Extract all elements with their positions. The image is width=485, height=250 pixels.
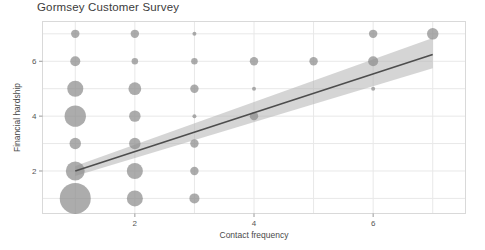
data-point-bubble xyxy=(371,87,375,91)
data-point-bubble xyxy=(190,84,198,92)
y-tick-label: 2 xyxy=(32,167,37,176)
data-point-bubble xyxy=(71,30,79,38)
data-point-bubble xyxy=(129,138,140,149)
data-point-bubble xyxy=(70,56,80,66)
data-point-bubble xyxy=(190,139,198,147)
x-tick-label: 6 xyxy=(371,219,376,228)
data-point-bubble xyxy=(127,190,143,206)
data-point-bubble xyxy=(70,138,81,149)
data-point-bubble xyxy=(191,58,197,64)
data-point-bubble xyxy=(250,57,258,65)
data-point-bubble xyxy=(189,193,199,203)
data-point-bubble xyxy=(369,30,377,38)
data-point-bubble xyxy=(252,87,256,91)
data-point-bubble xyxy=(131,30,139,38)
x-tick-label: 2 xyxy=(133,219,138,228)
data-point-bubble xyxy=(129,110,140,121)
data-point-bubble xyxy=(67,81,83,97)
data-point-bubble xyxy=(127,163,143,179)
data-point-bubble xyxy=(60,183,91,214)
y-tick-label: 4 xyxy=(32,112,37,121)
data-point-bubble xyxy=(132,58,138,64)
data-point-bubble xyxy=(190,167,198,175)
scatter-plot: 246246 Contact frequencyFinancial hardsh… xyxy=(0,0,485,250)
data-point-bubble xyxy=(427,28,438,39)
data-point-bubble xyxy=(192,114,196,118)
x-tick-label: 4 xyxy=(252,219,257,228)
data-point-bubble xyxy=(192,32,196,36)
data-point-bubble xyxy=(309,57,317,65)
data-point-bubble xyxy=(128,82,141,95)
data-point-bubble xyxy=(65,105,86,126)
data-point-bubble xyxy=(368,56,378,66)
y-tick-label: 6 xyxy=(32,57,37,66)
y-axis-title: Financial hardship xyxy=(12,83,22,152)
x-axis-title: Contact frequency xyxy=(220,230,290,240)
chart-container: Gormsey Customer Survey 246246 Contact f… xyxy=(0,0,485,250)
